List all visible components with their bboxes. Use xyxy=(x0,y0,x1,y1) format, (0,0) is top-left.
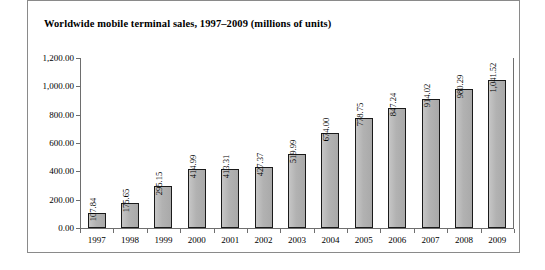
bar-value-label: 414.99 xyxy=(188,155,197,178)
bar-column: 427.372002 xyxy=(247,58,280,228)
bar xyxy=(488,80,506,228)
bar-value-label: 519.99 xyxy=(288,140,297,163)
bar-value-label: 914.02 xyxy=(422,84,431,107)
bar-value-label: 980.29 xyxy=(455,74,464,97)
x-axis-label: 1998 xyxy=(121,236,139,245)
x-axis-label: 1997 xyxy=(88,236,106,245)
bar xyxy=(321,133,339,228)
bar-value-label: 175.65 xyxy=(122,188,131,211)
bar-value-label: 847.24 xyxy=(389,93,398,116)
x-axis-tick xyxy=(314,229,315,233)
x-axis-tick xyxy=(80,229,81,233)
y-axis-label: 1,200.00 xyxy=(43,54,75,63)
figure-frame: Worldwide mobile terminal sales, 1997–20… xyxy=(27,0,520,253)
x-axis-tick xyxy=(214,229,215,233)
x-axis-label: 1999 xyxy=(154,236,172,245)
x-axis-label: 2002 xyxy=(255,236,273,245)
x-axis-line xyxy=(80,228,514,229)
y-axis-label: 400.00 xyxy=(49,167,74,176)
bar xyxy=(221,169,239,228)
chart-title: Worldwide mobile terminal sales, 1997–20… xyxy=(44,18,331,29)
bar-value-label: 1,041.52 xyxy=(489,63,498,93)
x-axis-tick xyxy=(147,229,148,233)
x-axis-tick xyxy=(414,229,415,233)
plot-area: 1,200.001,000.00800.00600.00400.00200.00… xyxy=(80,58,514,229)
x-axis-label: 2007 xyxy=(422,236,440,245)
x-axis-tick xyxy=(447,229,448,233)
x-axis-tick xyxy=(380,229,381,233)
x-axis-label: 2009 xyxy=(488,236,506,245)
x-axis-label: 2008 xyxy=(455,236,473,245)
x-axis-tick xyxy=(347,229,348,233)
bar-column: 778.752005 xyxy=(347,58,380,228)
bar-value-label: 778.75 xyxy=(355,103,364,126)
x-axis-label: 2004 xyxy=(321,236,339,245)
bar-column: 519.992003 xyxy=(280,58,313,228)
x-axis-label: 2005 xyxy=(355,236,373,245)
x-axis-label: 2001 xyxy=(221,236,239,245)
x-axis-tick xyxy=(180,229,181,233)
bar-column: 674.002004 xyxy=(314,58,347,228)
x-axis-tick xyxy=(247,229,248,233)
bar xyxy=(288,154,306,228)
bar-column: 980.292008 xyxy=(447,58,480,228)
y-axis-label: 200.00 xyxy=(49,195,74,204)
x-axis-label: 2006 xyxy=(388,236,406,245)
bar-column: 413.312001 xyxy=(214,58,247,228)
y-axis-label: 800.00 xyxy=(49,110,74,119)
x-axis-tick xyxy=(113,229,114,233)
bar-column: 414.992000 xyxy=(180,58,213,228)
bar-value-label: 413.31 xyxy=(222,155,231,178)
bar xyxy=(455,89,473,228)
bar-column: 295.151999 xyxy=(147,58,180,228)
y-axis-label: 0.00 xyxy=(58,224,74,233)
x-axis-tick xyxy=(514,229,515,233)
bar-column: 1,041.522009 xyxy=(481,58,514,228)
bar-value-label: 295.15 xyxy=(155,172,164,195)
y-axis-label: 600.00 xyxy=(49,139,74,148)
x-axis-tick xyxy=(280,229,281,233)
bar-column: 107.841997 xyxy=(80,58,113,228)
bar xyxy=(255,167,273,228)
bar-column: 914.022007 xyxy=(414,58,447,228)
bar-value-label: 674.00 xyxy=(322,118,331,141)
bar-column: 847.242006 xyxy=(380,58,413,228)
bar-column: 175.651998 xyxy=(113,58,146,228)
y-axis-label: 1,000.00 xyxy=(43,82,75,91)
x-axis-tick xyxy=(481,229,482,233)
x-axis-label: 2000 xyxy=(188,236,206,245)
bar xyxy=(422,99,440,228)
bar xyxy=(355,118,373,228)
bar-value-label: 107.84 xyxy=(88,198,97,221)
bar xyxy=(388,108,406,228)
bar-value-label: 427.37 xyxy=(255,153,264,176)
x-axis-label: 2003 xyxy=(288,236,306,245)
